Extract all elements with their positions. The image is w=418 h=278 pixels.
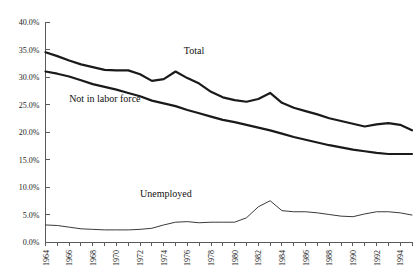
x-tick-label: 1982 (254, 250, 263, 266)
series-line-not-in-labor-force (46, 72, 413, 155)
x-tick-label: 1990 (349, 250, 358, 266)
y-axis-tick-labels: 40.0%35.0%30.0%25.0%20.0%15.0%10.0%5.0%0… (19, 18, 40, 247)
data-series-group (46, 52, 413, 230)
line-chart: 40.0%35.0%30.0%25.0%20.0%15.0%10.0%5.0%0… (0, 0, 418, 278)
total-label: Total (184, 45, 205, 56)
x-tick-label: 1986 (302, 250, 311, 266)
not-in-labor-force-label: Not in labor force (69, 93, 141, 104)
x-tick-label: 1970 (112, 250, 121, 266)
x-tick-label: 1994 (396, 250, 405, 266)
chart-container: 40.0%35.0%30.0%25.0%20.0%15.0%10.0%5.0%0… (0, 0, 418, 278)
y-tick-label: 0.0% (23, 238, 40, 247)
y-tick-label: 5.0% (23, 211, 40, 220)
y-tick-label: 25.0% (19, 101, 40, 110)
y-tick-label: 15.0% (19, 156, 40, 165)
x-tick-label: 1976 (183, 250, 192, 266)
x-tick-label: 1966 (65, 250, 74, 266)
x-tick-label: 1984 (278, 250, 287, 266)
series-line-total (46, 52, 413, 130)
x-tick-label: 1964 (42, 250, 51, 266)
x-axis: 1964196619681970197219741976197819801982… (42, 242, 413, 266)
x-tick-label: 1972 (136, 250, 145, 266)
y-tick-label: 35.0% (19, 46, 40, 55)
x-tick-label: 1988 (325, 250, 334, 266)
x-tick-label: 1978 (207, 250, 216, 266)
x-tick-label: 1968 (89, 250, 98, 266)
x-axis-tick-labels: 1964196619681970197219741976197819801982… (42, 250, 406, 266)
unemployed-label: Unemployed (140, 188, 192, 199)
y-tick-label: 40.0% (19, 18, 40, 27)
y-axis-ticks (46, 22, 50, 242)
y-tick-label: 30.0% (19, 73, 40, 82)
series-line-unemployed (46, 201, 413, 230)
y-tick-label: 10.0% (19, 183, 40, 192)
series-annotations: TotalNot in labor forceUnemployed (69, 45, 204, 199)
y-tick-label: 20.0% (19, 128, 40, 137)
x-tick-label: 1974 (160, 250, 169, 266)
x-tick-label: 1980 (231, 250, 240, 266)
x-tick-label: 1992 (373, 250, 382, 266)
